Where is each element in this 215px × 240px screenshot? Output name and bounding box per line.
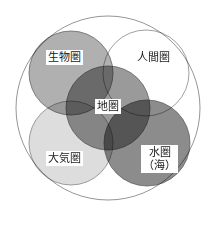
hydrosphere-label: 水圏 （海）	[141, 145, 178, 173]
hydrosphere-label-line1: 水圏	[143, 146, 176, 159]
hydrosphere-label-line2: （海）	[143, 159, 176, 172]
biosphere-label: 生物圏	[46, 50, 83, 65]
atmosphere-label: 大気圏	[46, 151, 83, 166]
geosphere-label: 地圏	[95, 99, 121, 114]
anthroposphere-label: 人間圏	[135, 50, 172, 65]
